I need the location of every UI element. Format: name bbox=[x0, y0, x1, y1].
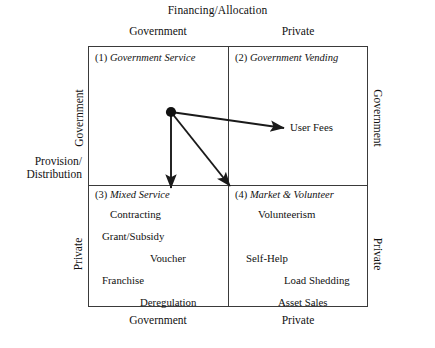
quadrant-3-item-contracting: Contracting bbox=[88, 203, 228, 225]
column-header-top-government: Government bbox=[88, 25, 228, 37]
quadrant-4-name: Market & Volunteer bbox=[250, 189, 334, 200]
quadrant-3-item-grant-subsidy: Grant/Subsidy bbox=[88, 225, 228, 247]
column-header-bottom-government: Government bbox=[88, 314, 228, 326]
quadrant-4-item-self-help: Self-Help bbox=[228, 247, 368, 269]
quadrant-4-list-spacer bbox=[228, 225, 368, 247]
column-header-top-private: Private bbox=[228, 25, 368, 37]
quadrant-2-heading: (2) Government Vending bbox=[235, 52, 338, 63]
quadrant-3-name: Mixed Service bbox=[110, 189, 170, 200]
left-axis-caption-line1: Provision/ bbox=[35, 155, 82, 167]
matrix-horizontal-divider bbox=[88, 185, 368, 186]
quadrant-1-number: (1) bbox=[95, 52, 107, 63]
quadrant-4-item-list: Volunteerism Self-Help Load Shedding Ass… bbox=[228, 203, 368, 313]
quadrant-4-item-asset-sales: Asset Sales bbox=[228, 291, 368, 313]
figure-title: Financing/Allocation bbox=[0, 4, 435, 16]
row-label-left-private: Private bbox=[72, 224, 84, 284]
quadrant-2-number: (2) bbox=[235, 52, 247, 63]
row-label-left-government: Government bbox=[73, 83, 85, 153]
user-fees-label: User Fees bbox=[290, 121, 333, 133]
quadrant-3-item-franchise: Franchise bbox=[88, 269, 228, 291]
left-axis-caption-line2: Distribution bbox=[26, 168, 82, 180]
quadrant-3-heading: (3) Mixed Service bbox=[95, 189, 170, 200]
quadrant-4-item-load-shedding: Load Shedding bbox=[228, 269, 368, 291]
quadrant-2-name: Government Vending bbox=[250, 52, 338, 63]
quadrant-4-item-volunteerism: Volunteerism bbox=[228, 203, 368, 225]
quadrant-3-item-list: Contracting Grant/Subsidy Voucher Franch… bbox=[88, 203, 228, 313]
row-label-right-private: Private bbox=[372, 224, 384, 284]
left-axis-caption: Provision/ Distribution bbox=[2, 155, 82, 181]
column-header-bottom-private: Private bbox=[228, 314, 368, 326]
quadrant-1-heading: (1) Government Service bbox=[95, 52, 195, 63]
quadrant-1-name: Government Service bbox=[110, 52, 195, 63]
quadrant-3-item-voucher: Voucher bbox=[88, 247, 228, 269]
quadrant-4-heading: (4) Market & Volunteer bbox=[235, 189, 334, 200]
row-label-right-government: Government bbox=[372, 83, 384, 153]
quadrant-3-item-deregulation: Deregulation bbox=[88, 291, 228, 313]
quadrant-3-number: (3) bbox=[95, 189, 107, 200]
quadrant-4-number: (4) bbox=[235, 189, 247, 200]
